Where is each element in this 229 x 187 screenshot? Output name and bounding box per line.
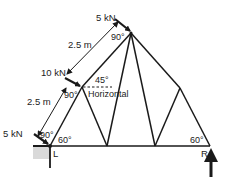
load-label-top: 5 kN (96, 12, 116, 23)
right-upper-chord (131, 33, 180, 88)
support-left-shape (33, 146, 50, 168)
support-label-left: L (53, 148, 58, 159)
angle-label-left-base: 60° (58, 135, 72, 145)
angle-label-bottom: 90° (40, 130, 54, 140)
support-label-right: R (201, 148, 208, 159)
load-label-bottom: 5 kN (3, 128, 23, 139)
horizontal-label: Horizontal (88, 89, 129, 99)
web-apex-right (131, 33, 155, 146)
dimension-label-lower: 2.5 m (27, 96, 51, 107)
truss-diagram: 5 kN 10 kN 5 kN 2.5 m 2.5 m 90° 90° 90° … (0, 0, 229, 187)
load-label-middle: 10 kN (41, 67, 66, 78)
angle-label-middle: 90° (64, 90, 78, 100)
angle-label-right-base: 60° (190, 135, 204, 145)
load-arrow-middle (65, 78, 80, 86)
web-right-diagonal (155, 88, 180, 146)
angle-label-load: 45° (95, 75, 109, 85)
angle-label-apex: 90° (111, 32, 125, 42)
load-arrow-top (115, 19, 130, 31)
dimension-label-upper: 2.5 m (68, 39, 92, 50)
